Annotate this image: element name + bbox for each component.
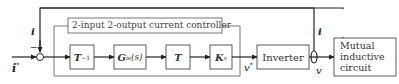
t-base: T xyxy=(174,52,181,63)
controller-title: 2-input 2-output current controller xyxy=(72,21,231,30)
circuit-label: Mutual inductive circuit xyxy=(340,40,385,73)
minus-sign: − xyxy=(30,43,38,52)
kv-base: K xyxy=(215,52,224,63)
mask xyxy=(341,9,346,37)
inverter-label: Inverter xyxy=(257,45,309,69)
feedback-label-right: i xyxy=(318,27,322,37)
circuit-line-2: inductive xyxy=(340,51,385,62)
input-label: i* xyxy=(12,62,19,74)
t-inverse-base: T xyxy=(74,52,81,63)
feedback-label-left: i xyxy=(31,27,35,37)
summing-junction xyxy=(37,54,44,61)
t-inverse-label: T−1 xyxy=(70,45,94,69)
kv-sub: v xyxy=(224,54,227,61)
v-label: v xyxy=(316,66,322,76)
gis-label: Gis(s) xyxy=(114,45,146,69)
kv-label: Kv xyxy=(210,45,232,69)
t-inverse-sup: −1 xyxy=(81,54,90,61)
circuit-line-1: Mutual xyxy=(340,40,385,51)
v-star-sup: * xyxy=(250,61,253,68)
gis-arg: (s) xyxy=(131,52,143,62)
circuit-line-3: circuit xyxy=(340,62,385,73)
t-label: T xyxy=(166,45,190,69)
input-label-sup: * xyxy=(16,61,19,68)
v-star-label: v* xyxy=(244,62,253,73)
gis-base: G xyxy=(117,52,126,63)
